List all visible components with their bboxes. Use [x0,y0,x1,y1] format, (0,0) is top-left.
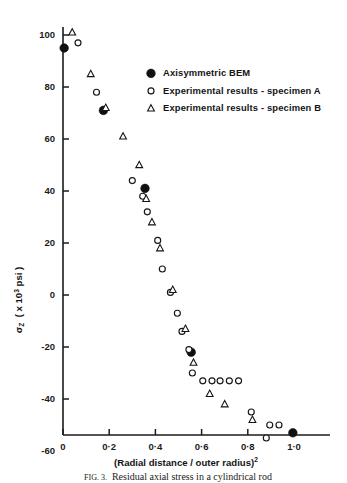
point-specimen-a [129,178,135,184]
x-tick-label: 0 [60,441,65,452]
point-specimen-a [226,378,232,384]
point-specimen-b [149,219,156,225]
point-specimen-b [249,416,256,422]
y-tick-label: 100 [39,29,55,40]
point-specimen-b [221,401,228,407]
point-specimen-a [159,266,165,272]
y-tick-label: 0 [50,289,55,300]
y-axis-title: σZ ( x 103 psi ) [13,267,26,334]
open-circle-marker [148,88,154,94]
point-specimen-a [200,378,206,384]
legend-label: Experimental results - specimen A [163,85,321,96]
y-tick-label: -60 [41,445,55,456]
y-tick-label: -20 [41,341,55,352]
point-specimen-a [263,435,269,441]
svg-text:σZ ( x 103 psi ): σZ ( x 103 psi ) [13,267,26,334]
point-specimen-a [236,378,242,384]
filled-circle-marker [147,69,156,78]
point-specimen-a [189,370,195,376]
legend-label: Axisymmetric BEM [163,67,250,78]
scatter-chart: 100806040200-20-40-6000·20·40·60·81·0 σZ… [0,0,347,483]
y-tick-label: -40 [41,393,55,404]
point-specimen-a [276,422,282,428]
point-specimen-b [69,29,76,35]
point-specimen-a [248,409,254,415]
figure-caption: FIG. 3. Residual axial stress in a cylin… [84,471,272,482]
x-tick-label: 0·2 [102,441,116,452]
point-specimen-a [217,378,223,384]
legend-label: Experimental results - specimen B [163,102,321,113]
open-triangle-marker [148,105,155,111]
y-tick-label: 20 [44,237,55,248]
x-tick-label: 0·4 [149,441,163,452]
point-specimen-a [144,209,150,215]
point-axisymmetric-bem [289,429,298,438]
legend-item: Experimental results - specimen A [148,85,321,96]
series-open-circle [75,40,282,441]
point-specimen-a [155,237,161,243]
x-tick-label: 1·0 [287,441,301,452]
legend-item: Experimental results - specimen B [148,102,322,113]
point-specimen-b [190,359,197,365]
x-axis-title: (Radial distance / outer radius)2 [114,456,258,468]
point-specimen-a [174,310,180,316]
x-tick-label: 0·8 [241,441,255,452]
y-tick-label: 40 [44,185,55,196]
figure-panel: 100806040200-20-40-6000·20·40·60·81·0 σZ… [0,0,347,483]
point-specimen-b [157,245,164,251]
point-specimen-b [120,133,127,139]
chart-legend: Axisymmetric BEMExperimental results - s… [147,67,322,113]
point-axisymmetric-bem [60,44,69,53]
point-specimen-b [136,161,143,167]
y-tick-label: 80 [44,81,55,92]
point-specimen-a [93,89,99,95]
point-specimen-a [267,422,273,428]
legend-item: Axisymmetric BEM [147,67,251,78]
y-tick-label: 60 [44,133,55,144]
svg-text:(Radial distance / outer radiu: (Radial distance / outer radius)2 [114,456,258,468]
x-tick-label: 0·6 [195,441,209,452]
point-specimen-a [209,378,215,384]
point-specimen-a [186,347,192,353]
point-specimen-b [206,390,213,396]
point-specimen-b [87,70,94,76]
point-axisymmetric-bem [141,184,150,193]
point-specimen-a [75,40,81,46]
